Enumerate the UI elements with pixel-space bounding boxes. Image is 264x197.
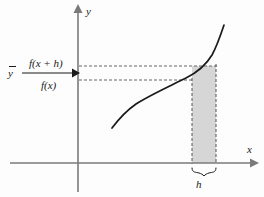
h-interval-label: h [196,179,202,190]
x-axis-arrow-icon [250,159,259,168]
diagram-canvas [0,0,264,197]
y-axis-label: y [86,6,91,17]
y-bar-pointer-arrow-icon [72,69,80,78]
f-x-label: f(x) [41,80,56,91]
y-bar-label: y [8,66,16,79]
h-brace-icon [192,168,216,176]
y-axis-arrow-icon [74,4,83,13]
shaded-h-region [192,66,216,163]
y-bar-letter: y [8,67,13,79]
derivative-diagram-figure: y x f(x + h) f(x) y h [0,0,264,197]
f-x-plus-h-label: f(x + h) [29,58,63,69]
x-axis-label: x [247,144,252,155]
